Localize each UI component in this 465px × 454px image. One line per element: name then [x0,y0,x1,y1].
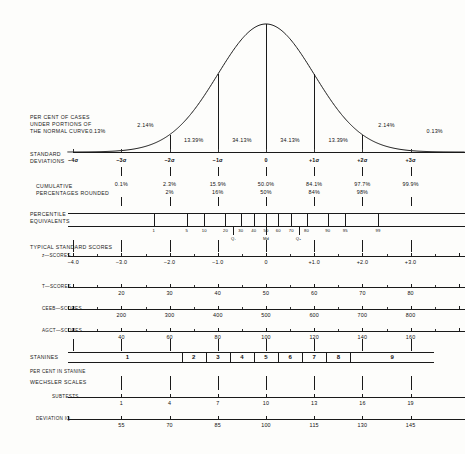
cumulative-exact: 84.1% [306,181,322,187]
wechsler-subtests-tick [121,394,122,397]
deviation-iq-tick-label: 130 [358,422,368,428]
scale-tick-CEEB-scores [338,307,339,309]
scale-axis-CEEB-scores [68,309,465,310]
stanine-connector [218,339,219,351]
sd-tick [266,149,267,152]
scale-tick-T-scores [314,284,315,287]
deviation-iq-tick-label: 70 [166,422,172,428]
scale-tick-AGCT-scores [146,329,147,331]
percentile-tick [345,213,346,226]
wechsler-scales-label: WECHSLER SCALES [30,379,87,386]
scale-axis-endcap-T-scores [68,284,69,287]
wechsler-subtests-tick-label: 10 [263,400,269,406]
scale-tick-CEEB-scores [218,306,219,309]
sd-tick-label: +1σ [309,157,319,163]
scale-tick-CEEB-scores [290,307,291,309]
scale-tick-T-scores [459,284,460,287]
cumulative-rounded: 16% [212,189,223,195]
scale-tick-AGCT-scores [362,328,363,331]
scale-tick-label-z-scores: +1.0 [308,259,319,265]
percentile-tick [266,213,267,226]
normal-curve-chart: PER CENT OF CASES UNDER PORTIONS OF THE … [0,0,465,454]
scale-tick-label-z-scores: 0 [264,259,267,265]
cumulative-connector-top [170,167,171,176]
percent-of-cases-value: 13.39% [184,137,203,143]
wechsler-subtests-tick [314,394,315,397]
scale-tick-T-scores [362,284,363,287]
scale-tick-label-z-scores: −2.0 [164,259,175,265]
percentile-tick-label: 60 [276,228,281,233]
sd-tick [170,149,171,152]
sd-tick-label: −2σ [164,157,174,163]
wechsler-connector [121,376,122,390]
cumulative-connector-top [411,167,412,176]
quartile-marker [299,227,300,235]
deviation-iq-tick [266,416,267,419]
wechsler-subtests-axis [68,397,465,398]
wechsler-connector [362,376,363,390]
scale-tick-T-scores [411,284,412,287]
stanine-divider [182,352,183,363]
standard-deviations-label: STANDARD DEVIATIONS [30,151,65,165]
scale-axis-AGCT-scores [68,331,465,332]
scale-tick-AGCT-scores [73,328,74,331]
scale-tick-T-scores [387,285,388,287]
cumulative-exact: 50.0% [258,181,274,187]
percentile-tick [378,213,379,226]
scale-tick-label-CEEB-scores: 500 [261,312,271,318]
wechsler-subtests-tick-label: 13 [311,400,317,406]
deviation-iq-tick [218,416,219,419]
cumulative-connector-top [218,167,219,176]
deviation-iq-tick-label: 85 [215,422,221,428]
percentile-tick [225,213,226,226]
scale-tick-label-z-scores: −3.0 [116,259,127,265]
cumulative-rounded: 50% [260,189,271,195]
scale-tick-CEEB-scores [73,306,74,309]
scale-axis-z-scores [68,256,465,257]
cumulative-connector-bottom [411,197,412,206]
percentile-tick-label: 5 [185,228,188,233]
curve-ordinate-1 [314,74,315,152]
percentile-tick-label: 30 [238,228,243,233]
percent-of-cases-value: 2.14% [137,122,153,128]
percentile-tick-label: 90 [325,228,330,233]
percentile-tick-label: 80 [304,228,309,233]
sd-tick-label: +3σ [405,157,415,163]
wechsler-connector [411,376,412,390]
scale-axis-endcap-CEEB-scores [68,306,69,309]
stanine-connector [362,339,363,351]
cumulative-connector-top [121,167,122,176]
scale-tick-label-T-scores: 30 [166,290,172,296]
scale-tick-label-T-scores: 50 [263,290,269,296]
scale-tick-T-scores [338,285,339,287]
percent-of-cases-value: 2.14% [378,122,394,128]
percentile-equivalents-label: PERCENTILE EQUIVALENTS [30,211,70,225]
sd-tick-label: −4σ [68,157,78,163]
scale-tick-z-scores [97,254,98,256]
stanine-connector [170,339,171,351]
curve-ordinate-0 [266,24,267,152]
wechsler-connector [314,376,315,390]
scale-label-T-scores: T—SCORES [42,283,71,290]
percentile-tick [204,213,205,226]
sd-tick-label: +2σ [357,157,367,163]
deviation-iq-tick-label: 145 [406,422,416,428]
quartile-marker [266,227,267,235]
scale-tick-z-scores [170,253,171,256]
scale-tick-label-z-scores: −1.0 [212,259,223,265]
scale-tick-CEEB-scores [97,307,98,309]
percentile-tick [241,213,242,226]
scale-tick-AGCT-scores [314,328,315,331]
stanine-divider [302,352,303,363]
scale-label-z-scores: z—SCORES [42,252,71,259]
scale-tick-z-scores [194,254,195,256]
percentile-tick-label: 1 [153,228,156,233]
percentile-tick-label: 40 [251,228,256,233]
stanine-divider [350,352,351,363]
scale-tick-AGCT-scores [242,329,243,331]
scale-tick-CEEB-scores [146,307,147,309]
deviation-iq-tick [362,416,363,419]
scale-tick-label-T-scores: 20 [118,290,124,296]
sd-tick [121,149,122,152]
scale-tick-z-scores [121,253,122,256]
